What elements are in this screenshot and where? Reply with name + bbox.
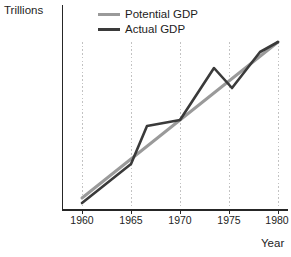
actual-gdp-swatch [98,28,120,31]
series-actual-gdp [82,42,278,203]
x-tick-label-1970: 1970 [160,214,200,226]
legend-label-potential-gdp: Potential GDP [125,8,198,21]
x-tick-label-1975: 1975 [209,214,249,226]
legend-label-actual-gdp: Actual GDP [125,23,185,36]
x-tick-label-1965: 1965 [111,214,151,226]
x-axis-title: Year [261,237,284,250]
legend-item-actual-gdp: Actual GDP [98,22,198,36]
legend-item-potential-gdp: Potential GDP [98,7,198,21]
chart-legend: Potential GDP Actual GDP [98,7,198,37]
x-tick-label-1980: 1980 [257,214,291,226]
potential-gdp-swatch [98,13,120,16]
gdp-line-chart: Trillions Potential GDP [0,0,291,257]
x-tick-label-1960: 1960 [62,214,102,226]
